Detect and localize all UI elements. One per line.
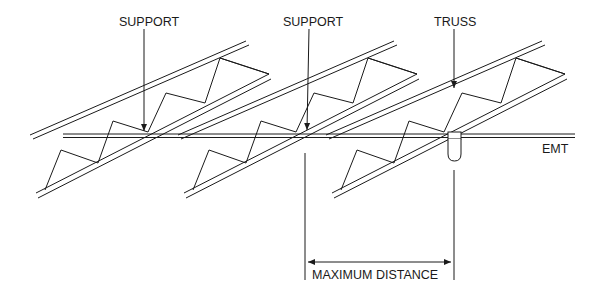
max-distance-label: MAXIMUM DISTANCE (312, 268, 438, 282)
truss-1 (30, 41, 271, 198)
truss-2 (178, 41, 419, 198)
dimension-max-distance (305, 153, 454, 280)
truss-3 (326, 41, 567, 198)
truss-label: TRUSS (434, 15, 476, 29)
support-middle-label: SUPPORT (283, 15, 344, 29)
support-middle-leader (307, 29, 309, 130)
support-left-label: SUPPORT (119, 15, 180, 29)
diagram-canvas: SUPPORT SUPPORT TRUSS EMT MAXIMUM DISTAN… (0, 0, 604, 293)
hanger-strap (448, 132, 461, 161)
emt-label: EMT (542, 142, 569, 156)
emt-conduit (63, 134, 575, 138)
